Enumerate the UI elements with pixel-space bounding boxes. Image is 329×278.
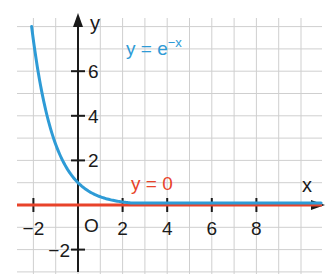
- y-tick-label: −2: [48, 240, 70, 261]
- x-tick-label: 6: [207, 218, 218, 239]
- y-axis-label: y: [90, 12, 100, 34]
- origin-label: O: [84, 215, 99, 236]
- x-tick-label: 2: [117, 218, 128, 239]
- exp-curve: [32, 27, 321, 204]
- x-tick-label: 4: [162, 218, 173, 239]
- y-tick-label: 6: [88, 61, 99, 82]
- y-tick-label: 2: [88, 150, 99, 171]
- chart-plot: −22468−2246 y x O y = e−x y = 0: [0, 0, 329, 278]
- y-axis-arrow-icon: [73, 13, 83, 27]
- x-tick-label: 8: [251, 218, 262, 239]
- zero-line-label: y = 0: [131, 173, 173, 194]
- x-axis-label: x: [302, 174, 312, 196]
- y-tick-label: 4: [88, 106, 99, 127]
- x-tick-label: −2: [23, 218, 45, 239]
- exp-curve-label-base: y = e: [126, 38, 168, 59]
- exp-curve-label-exponent: −x: [168, 35, 183, 50]
- exp-curve-label: y = e−x: [126, 35, 182, 59]
